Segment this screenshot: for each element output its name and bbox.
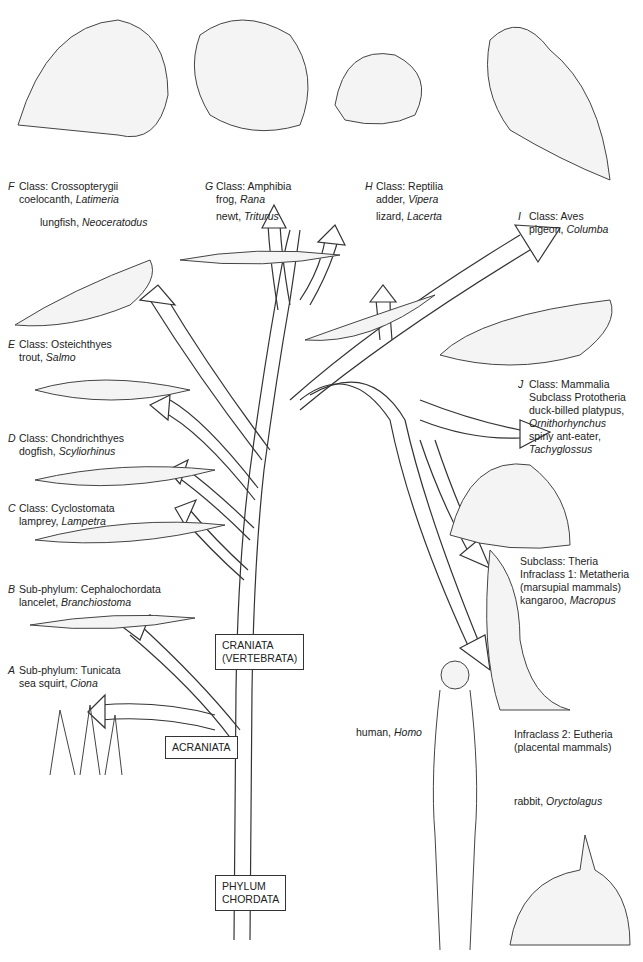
label-group-j: JClass: Mammalia Subclass Prototheria du… — [518, 378, 626, 456]
label-lungfish: lungfish, Neoceratodus — [40, 216, 147, 229]
label-group-d: DClass: Chondrichthyes dogfish, Scyliorh… — [8, 432, 124, 458]
adder-illustration — [325, 25, 445, 135]
label-group-c: CClass: Cyclostomata lamprey, Lampetra — [8, 502, 115, 528]
spiny-anteater-illustration — [440, 445, 580, 555]
chordata-phylogeny-diagram: FClass: Crossopterygii coelocanth, Latim… — [0, 0, 643, 962]
lizard-illustration — [300, 290, 440, 360]
pigeon-illustration — [450, 10, 620, 200]
coelacanth-illustration — [8, 5, 178, 165]
label-human: human, Homo — [356, 726, 422, 739]
human-illustration — [410, 655, 500, 955]
label-group-g: GClass: Amphibia frog, Rana newt, Tritur… — [205, 180, 291, 223]
label-group-h: HClass: Reptilia adder, Vipera lizard, L… — [365, 180, 443, 223]
phylum-chordata-box: PHYLUM CHORDATA — [215, 875, 286, 911]
label-group-b: BSub-phylum: Cephalochordata lancelet, B… — [8, 583, 161, 609]
label-group-a: ASub-phylum: Tunicata sea squirt, Ciona — [8, 664, 121, 690]
frog-illustration — [180, 5, 330, 145]
trout-illustration — [30, 365, 200, 420]
newt-illustration — [175, 240, 345, 295]
platypus-illustration — [430, 295, 630, 385]
label-theria: Subclass: Theria Infraclass 1: Metatheri… — [520, 555, 629, 607]
lancelet-illustration — [25, 610, 200, 640]
label-eutheria: Infraclass 2: Eutheria (placental mammal… — [514, 728, 613, 754]
acraniata-box: ACRANIATA — [165, 736, 238, 759]
label-group-e: EClass: Osteichthyes trout, Salmo — [8, 338, 112, 364]
craniata-box: CRANIATA (VERTEBRATA) — [215, 634, 304, 670]
sea-squirt-illustration — [40, 690, 130, 780]
rabbit-illustration — [500, 830, 640, 955]
dogfish-illustration — [30, 455, 220, 505]
lungfish-illustration — [10, 250, 160, 340]
label-group-f: FClass: Crossopterygii coelocanth, Latim… — [8, 180, 119, 206]
label-group-i: IClass: Aves pigeon, Columba — [518, 210, 608, 236]
label-rabbit: rabbit, Oryctolagus — [514, 795, 602, 808]
